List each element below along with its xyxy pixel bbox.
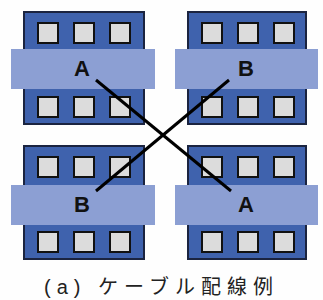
figure-caption: (a) ケーブル配線例 [0, 271, 323, 300]
